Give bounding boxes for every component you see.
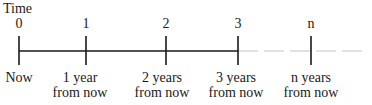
tick-label-2: 2: [151, 16, 181, 32]
tick-label-n: n: [296, 16, 326, 32]
period-label-1: 1 year from now: [35, 70, 125, 100]
period-label-n: n years from now: [266, 70, 356, 100]
period-label-line1: n years: [266, 70, 356, 85]
period-label-line1: 1 year: [35, 70, 125, 85]
tick-label-3: 3: [223, 16, 253, 32]
period-label-line2: from now: [266, 85, 356, 100]
period-label-line2: from now: [35, 85, 125, 100]
tick-label-0: 0: [4, 16, 34, 32]
tick-label-1: 1: [71, 16, 101, 32]
